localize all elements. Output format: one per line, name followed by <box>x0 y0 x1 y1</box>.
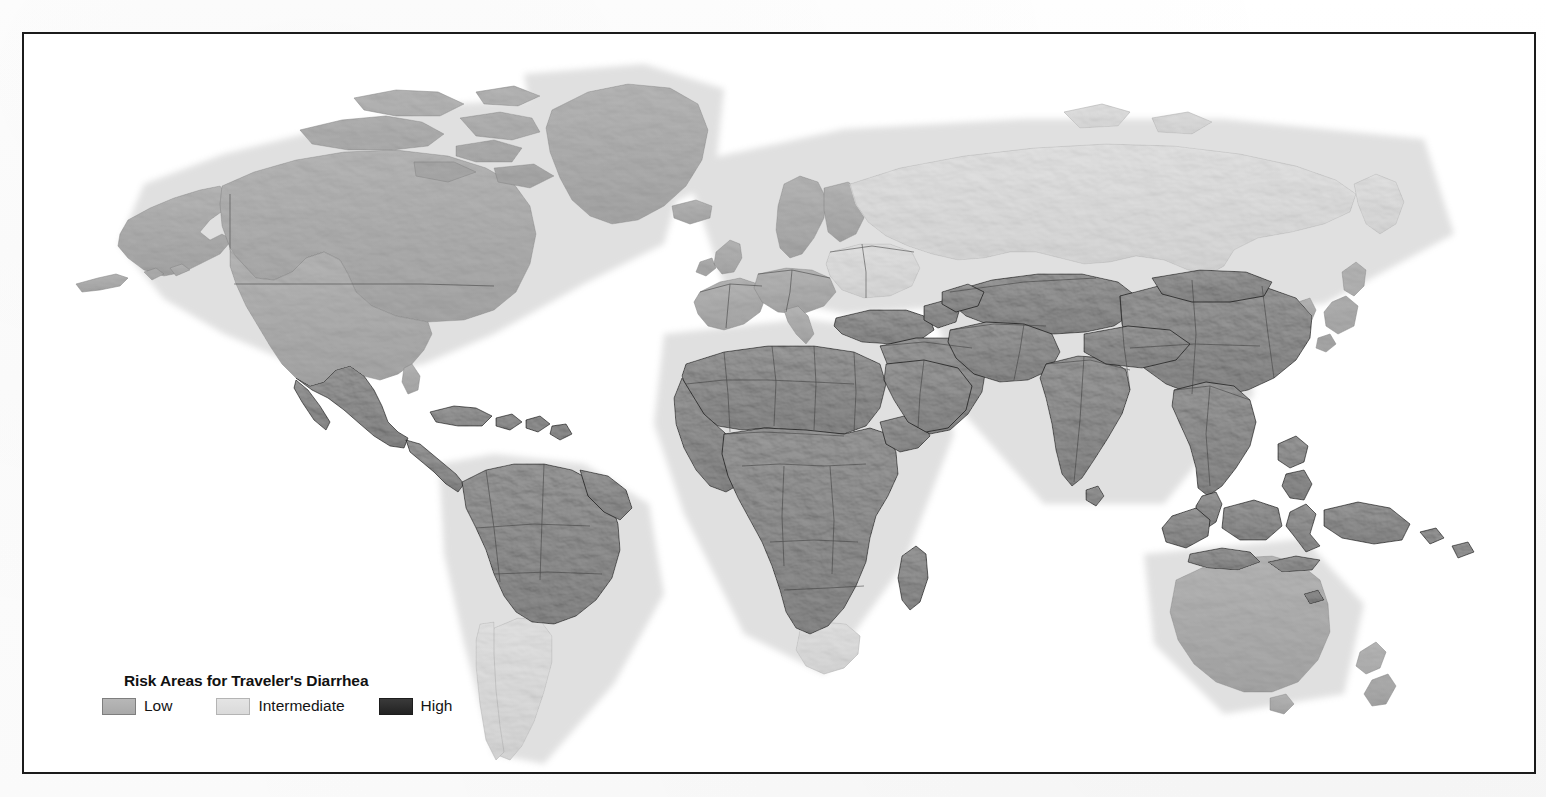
legend-label-high: High <box>421 697 453 715</box>
legend-item-high: High <box>379 697 453 715</box>
map-frame: Risk Areas for Traveler's Diarrhea Low I… <box>22 32 1536 774</box>
map-stage <box>24 34 1534 772</box>
legend-swatch-intermediate-icon <box>216 698 250 715</box>
figure-page: Risk Areas for Traveler's Diarrhea Low I… <box>0 0 1546 797</box>
legend-item-intermediate: Intermediate <box>216 697 344 715</box>
region-north-africa <box>682 346 886 434</box>
legend-label-intermediate: Intermediate <box>258 697 344 715</box>
legend-title: Risk Areas for Traveler's Diarrhea <box>124 672 482 690</box>
world-risk-map <box>24 34 1534 772</box>
legend-item-low: Low <box>102 697 172 715</box>
legend-label-low: Low <box>144 697 172 715</box>
map-legend: Risk Areas for Traveler's Diarrhea Low I… <box>102 672 482 715</box>
legend-swatch-low-icon <box>102 698 136 715</box>
legend-swatch-high-icon <box>379 698 413 715</box>
region-borneo <box>1222 500 1282 540</box>
legend-items: Low Intermediate High <box>102 697 482 715</box>
